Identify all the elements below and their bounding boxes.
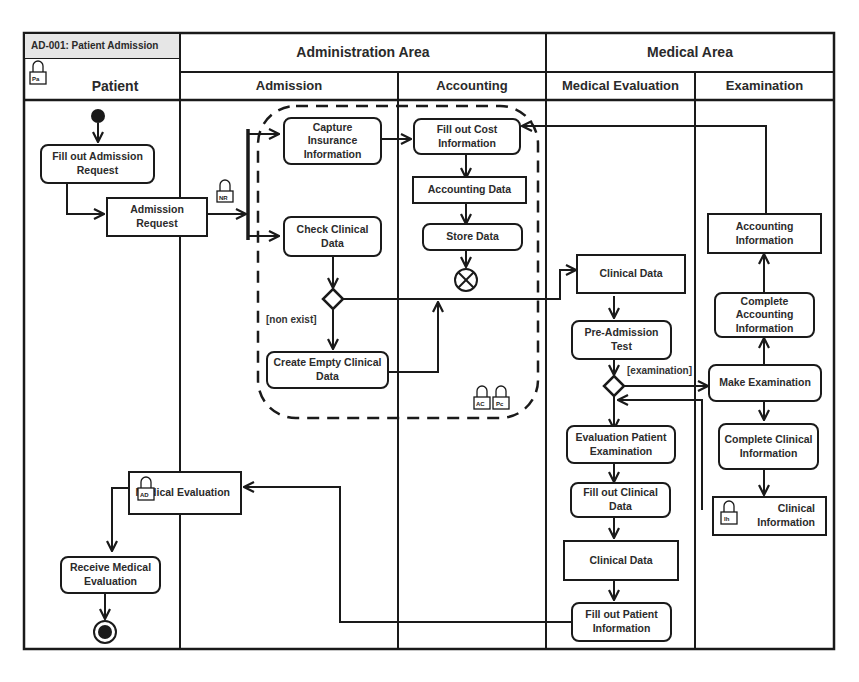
action-capture-insurance-information[interactable]: Capture Insurance Information bbox=[283, 117, 382, 165]
action-receive-medical-evaluation[interactable]: Receive Medical Evaluation bbox=[60, 556, 161, 594]
action-fill-out-clinical-data[interactable]: Fill out Clinical Data bbox=[570, 482, 671, 518]
lock-tag-ad: AD bbox=[140, 492, 149, 498]
diagram-id-tag: AD-001: Patient Admission bbox=[25, 34, 179, 58]
lock-tag-ih: Ih bbox=[724, 516, 730, 522]
object-accounting-information[interactable]: Accounting Information bbox=[707, 213, 822, 254]
lock-tag-nr: NR bbox=[219, 195, 228, 201]
object-clinical-data-2[interactable]: Clinical Data bbox=[563, 540, 679, 581]
lane-header-examination: Examination bbox=[695, 72, 834, 100]
lock-tag-ac: AC bbox=[476, 401, 485, 407]
guard-examination: [examination] bbox=[627, 365, 692, 376]
action-fill-out-cost-information[interactable]: Fill out Cost Information bbox=[413, 118, 521, 155]
action-pre-admission-test[interactable]: Pre-Admission Test bbox=[571, 320, 672, 360]
action-fill-out-patient-information[interactable]: Fill out Patient Information bbox=[571, 602, 672, 642]
area-header-medical: Medical Area bbox=[546, 33, 834, 72]
decision-node-examination bbox=[604, 376, 624, 396]
action-store-data[interactable]: Store Data bbox=[422, 223, 523, 251]
lock-tag-pc: Pc bbox=[496, 401, 504, 407]
final-node bbox=[94, 621, 116, 643]
flow-final-node bbox=[455, 269, 477, 291]
action-make-examination[interactable]: Make Examination bbox=[708, 364, 822, 402]
guard-non-exist: [non exist] bbox=[266, 314, 317, 325]
action-create-empty-clinical-data[interactable]: Create Empty Clinical Data bbox=[266, 351, 389, 389]
action-complete-clinical-information[interactable]: Complete Clinical Information bbox=[718, 423, 819, 470]
action-complete-accounting-information[interactable]: Complete Accounting Information bbox=[714, 292, 815, 338]
lane-header-patient: Patient bbox=[50, 72, 180, 100]
object-clinical-data-1[interactable]: Clinical Data bbox=[576, 254, 686, 294]
lane-header-accounting: Accounting bbox=[398, 72, 546, 100]
lock-icon-ih: Ih bbox=[720, 500, 740, 528]
lane-header-admission: Admission bbox=[180, 72, 398, 100]
area-header-administration: Administration Area bbox=[180, 33, 546, 72]
decision-node-clinical bbox=[323, 289, 343, 309]
initial-node bbox=[91, 109, 105, 123]
lock-tag-pa: Pa bbox=[32, 76, 40, 82]
action-check-clinical-data[interactable]: Check Clinical Data bbox=[283, 216, 382, 257]
lock-icon-ad: AD bbox=[137, 476, 157, 504]
object-admission-request[interactable]: Admission Request bbox=[106, 197, 208, 237]
object-accounting-data[interactable]: Accounting Data bbox=[412, 176, 527, 204]
action-evaluation-patient-examination[interactable]: Evaluation Patient Examination bbox=[566, 425, 676, 464]
action-fill-out-admission-request[interactable]: Fill out Admission Request bbox=[40, 144, 155, 184]
lane-header-medical-evaluation: Medical Evaluation bbox=[546, 72, 695, 100]
